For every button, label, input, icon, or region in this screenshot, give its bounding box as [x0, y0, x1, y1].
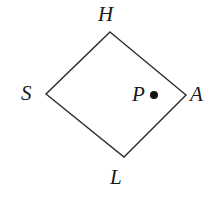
point-p-marker [150, 91, 158, 99]
quadrilateral-diagram-svg [0, 0, 217, 204]
vertex-label-s: S [21, 83, 32, 104]
geometry-figure: H S A L P [0, 0, 217, 204]
quadrilateral-shape [46, 32, 186, 157]
vertex-label-l: L [110, 167, 122, 188]
vertex-label-a: A [190, 84, 203, 105]
point-label-p: P [132, 84, 145, 105]
vertex-label-h: H [98, 4, 113, 25]
